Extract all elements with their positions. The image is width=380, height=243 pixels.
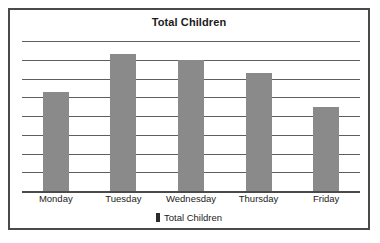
x-axis-labels: MondayTuesdayWednesdayThursdayFriday [22, 193, 360, 204]
chart-frame: Total Children MondayTuesdayWednesdayThu… [8, 8, 370, 230]
bar-friday[interactable] [313, 107, 339, 191]
bar-slot [292, 41, 360, 191]
bar-tuesday[interactable] [110, 54, 136, 191]
x-axis-label-tuesday: Tuesday [90, 193, 158, 204]
chart-legend: Total Children [10, 212, 368, 223]
plot-area [22, 41, 360, 191]
bar-slot [22, 41, 90, 191]
bar-thursday[interactable] [246, 73, 272, 191]
bar-slot [157, 41, 225, 191]
bar-slot [90, 41, 158, 191]
bar-slot [225, 41, 293, 191]
bars-group [22, 41, 360, 191]
legend-swatch-icon [156, 213, 160, 222]
x-axis-label-thursday: Thursday [225, 193, 293, 204]
x-axis-label-friday: Friday [292, 193, 360, 204]
legend-label: Total Children [164, 212, 222, 223]
x-axis-label-wednesday: Wednesday [157, 193, 225, 204]
bar-wednesday[interactable] [178, 60, 204, 191]
x-axis-label-monday: Monday [22, 193, 90, 204]
chart-title: Total Children [10, 16, 368, 28]
bar-monday[interactable] [43, 92, 69, 191]
